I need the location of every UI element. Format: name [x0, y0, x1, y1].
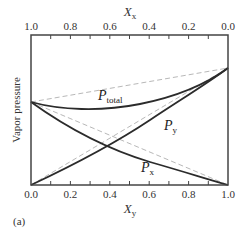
svg-text:0.2: 0.2 — [182, 20, 196, 32]
svg-text:0.0: 0.0 — [221, 20, 235, 32]
svg-text:1.0: 1.0 — [24, 20, 38, 32]
svg-text:0.0: 0.0 — [24, 188, 38, 200]
y-axis-title: Vapor pressure — [10, 77, 22, 143]
svg-text:0.2: 0.2 — [64, 188, 78, 200]
x-top-axis-title: Xx — [123, 4, 137, 21]
svg-text:0.4: 0.4 — [142, 20, 156, 32]
svg-text:0.6: 0.6 — [103, 20, 117, 32]
svg-text:0.4: 0.4 — [103, 188, 117, 200]
svg-text:1.0: 1.0 — [221, 188, 235, 200]
p-y-label: Py — [163, 118, 178, 135]
vapor-pressure-chart: Xx 1.0 0.8 0.6 0.4 0.2 0.0 Vapor pressur… — [0, 0, 247, 241]
svg-text:0.8: 0.8 — [64, 20, 78, 32]
svg-text:0.8: 0.8 — [182, 188, 196, 200]
x-bottom-axis-title: Xy — [123, 201, 137, 218]
x-bottom-tick-labels: 0.0 0.2 0.4 0.6 0.8 1.0 — [24, 188, 235, 200]
p-total-label: Ptotal — [97, 88, 123, 105]
plot-frame — [31, 35, 228, 185]
svg-text:0.6: 0.6 — [142, 188, 156, 200]
x-top-tick-labels: 1.0 0.8 0.6 0.4 0.2 0.0 — [24, 20, 235, 32]
panel-label: (a) — [13, 215, 26, 228]
ideal-x-line — [31, 102, 228, 185]
